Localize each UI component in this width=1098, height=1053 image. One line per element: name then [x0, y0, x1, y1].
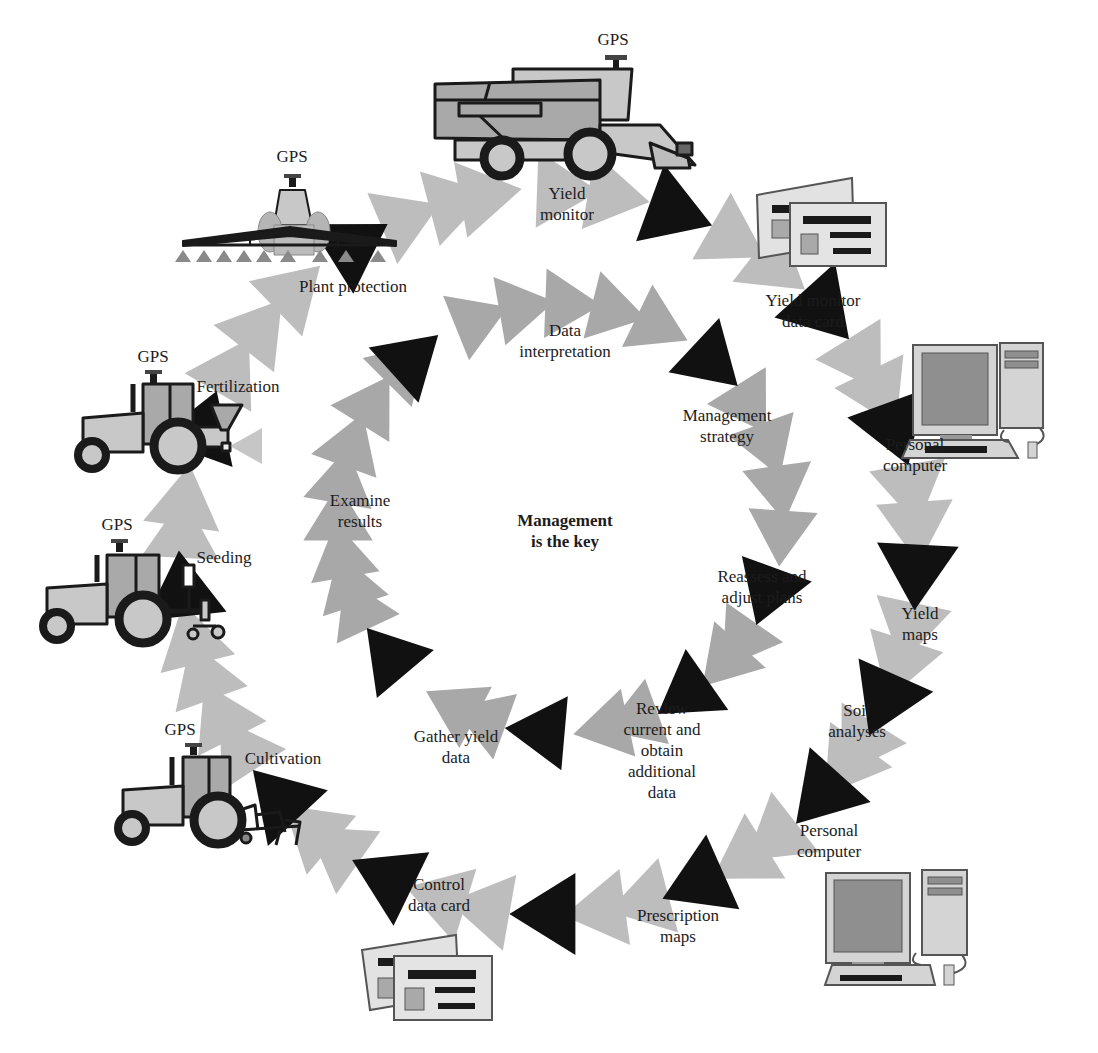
outer-step-label-soil-analyses: Soil analyses — [828, 700, 886, 742]
outer-step-label-yield-monitor-data-card: Yield monitor data card — [766, 290, 861, 332]
gps-label-sprayer: GPS — [276, 147, 307, 167]
gps-label-cultivation-tractor: GPS — [164, 720, 195, 740]
outer-step-label-yield-maps: Yield maps — [902, 603, 939, 645]
personal-computer-icon — [825, 870, 967, 985]
inner-step-label-reassess-and-adjust-plans: Reassess and adjust plans — [717, 566, 806, 608]
combine-harvester-icon — [435, 55, 695, 176]
inner-step-label-gather-yield-data: Gather yield data — [414, 726, 499, 768]
dark-arrow-icon — [367, 628, 434, 698]
gps-label-fertilizer-tractor: GPS — [137, 347, 168, 367]
outer-step-label-personal-computer-1: Personal computer — [883, 434, 947, 476]
outer-step-label-fertilization: Fertilization — [196, 376, 279, 397]
inner-step-label-data-interpretation: Data interpretation — [519, 320, 611, 362]
inner-step-label-examine-results: Examine results — [330, 490, 390, 532]
data-card-icon — [362, 935, 492, 1020]
outer-step-label-plant-protection: Plant protection — [299, 276, 407, 297]
light-arrow-icon — [443, 296, 508, 360]
light-arrow-icon — [143, 465, 219, 532]
data-card-icon — [757, 178, 886, 266]
outer-step-label-yield-monitor: Yield monitor — [540, 183, 594, 225]
outer-step-label-seeding: Seeding — [197, 547, 252, 568]
gps-label-combine-harvester: GPS — [597, 30, 628, 50]
dark-arrow-icon — [509, 873, 575, 955]
inner-step-label-review-current-and-obtain-additional-data: Review current and obtain additional dat… — [624, 698, 701, 803]
dark-arrow-icon — [505, 696, 568, 770]
outer-step-label-personal-computer-2: Personal computer — [797, 820, 861, 862]
outer-step-label-prescription-maps: Prescription maps — [637, 905, 719, 947]
center-title: Management is the key — [517, 510, 612, 552]
light-arrow-icon — [748, 508, 817, 566]
inner-step-label-management-strategy: Management strategy — [683, 405, 772, 447]
outer-step-label-cultivation: Cultivation — [245, 748, 322, 769]
gps-label-seeding-tractor: GPS — [101, 515, 132, 535]
dark-arrow-icon — [636, 164, 712, 241]
outer-step-label-control-data-card: Control data card — [408, 874, 470, 916]
